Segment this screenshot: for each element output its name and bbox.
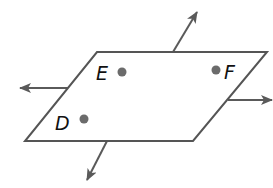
label-f: F: [224, 61, 236, 83]
label-e: E: [96, 62, 108, 84]
point-d: [80, 115, 89, 124]
line-down: [87, 141, 107, 180]
diagram-canvas: E F D: [0, 0, 273, 188]
line-up: [173, 12, 197, 52]
point-f: [212, 66, 221, 75]
point-e: [118, 68, 127, 77]
label-d: D: [55, 112, 70, 134]
